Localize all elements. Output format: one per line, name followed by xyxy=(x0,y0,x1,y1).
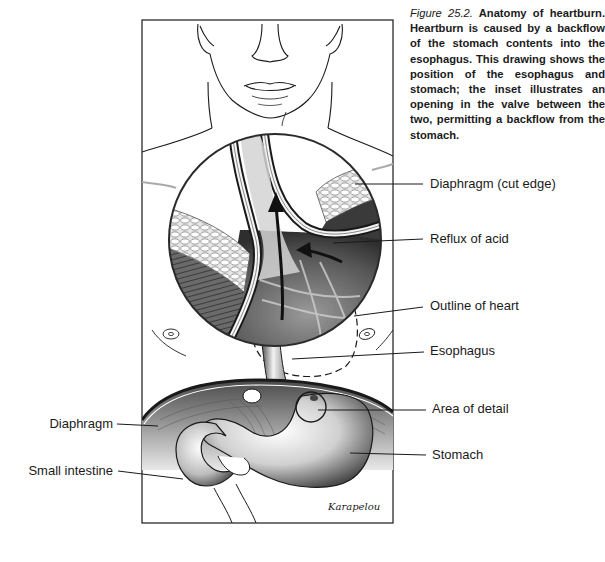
label-small-intestine: Small intestine xyxy=(28,463,113,478)
label-stomach: Stomach xyxy=(432,447,483,462)
figure-number: Figure 25.2. xyxy=(410,7,473,19)
caption-text: Anatomy of heartburn. Heartburn is cause… xyxy=(410,7,605,141)
label-diaphragm-cut-edge: Diaphragm (cut edge) xyxy=(430,176,556,191)
artist-signature: Karapelou xyxy=(328,501,380,512)
label-outline-of-heart: Outline of heart xyxy=(430,298,519,313)
aortic-opening xyxy=(243,389,261,403)
label-reflux-of-acid: Reflux of acid xyxy=(430,231,509,246)
label-area-of-detail: Area of detail xyxy=(432,401,509,416)
figure-caption: Figure 25.2. Anatomy of heartburn. Heart… xyxy=(410,6,605,143)
label-diaphragm: Diaphragm xyxy=(49,416,113,431)
label-esophagus: Esophagus xyxy=(430,343,495,358)
